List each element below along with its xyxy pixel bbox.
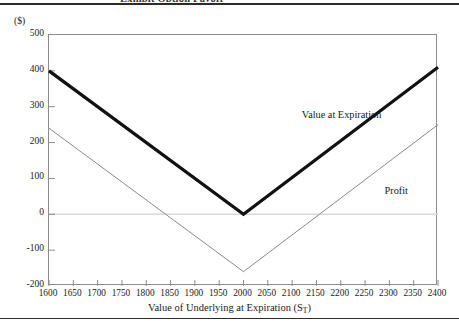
x-axis-title-subscript: T xyxy=(303,306,308,315)
figure-caption-fragment: Exhibit Option Payoff xyxy=(120,0,350,2)
x-axis-title-paren: ) xyxy=(307,302,311,313)
y-axis-tick-label: 100 xyxy=(0,173,44,183)
x-axis-tick-label: 2000 xyxy=(233,289,252,298)
x-axis-tick-label: 1650 xyxy=(63,289,82,298)
x-axis-tick-labels: 1600165017001750180018501900195020002050… xyxy=(48,289,437,302)
x-axis-tick-marks xyxy=(49,280,438,286)
y-axis-tick-label: 500 xyxy=(0,29,44,39)
y-axis-tick-labels: 5004003002001000-100-200 xyxy=(0,34,44,285)
y-axis-unit-label: ($) xyxy=(14,17,25,27)
y-axis-tick-label: -200 xyxy=(0,280,44,290)
y-axis-tick-label: 200 xyxy=(0,137,44,147)
y-axis-tick-marks xyxy=(49,71,55,250)
series-annotation-value-at-expiration: Value at Expiration xyxy=(302,110,382,120)
payoff-figure: Exhibit Option Payoff ($) 50040030020010… xyxy=(0,0,459,327)
bottom-rule xyxy=(0,318,459,319)
series-annotation-profit: Profit xyxy=(385,186,408,196)
series-line xyxy=(49,67,438,214)
y-axis-tick-label: -100 xyxy=(0,244,44,254)
x-axis-tick-label: 2050 xyxy=(258,289,277,298)
x-axis-title-main: Value of Underlying at Expiration (S xyxy=(148,302,303,313)
x-axis-tick-label: 1800 xyxy=(136,289,155,298)
x-axis-tick-label: 2300 xyxy=(379,289,398,298)
x-axis-tick-label: 2350 xyxy=(403,289,422,298)
x-axis-tick-label: 2250 xyxy=(355,289,374,298)
x-axis-tick-label: 1600 xyxy=(39,289,58,298)
x-axis-tick-label: 1700 xyxy=(87,289,106,298)
series-lines xyxy=(49,67,438,271)
plot-svg xyxy=(49,35,438,286)
x-axis-tick-label: 2100 xyxy=(282,289,301,298)
x-axis-tick-label: 1950 xyxy=(209,289,228,298)
y-axis-tick-label: 300 xyxy=(0,101,44,111)
y-axis-tick-label: 0 xyxy=(0,209,44,219)
x-axis-tick-label: 1850 xyxy=(160,289,179,298)
x-axis-title: Value of Underlying at Expiration (ST) xyxy=(0,303,459,314)
x-axis-tick-label: 2150 xyxy=(306,289,325,298)
x-axis-tick-label: 1900 xyxy=(185,289,204,298)
y-axis-tick-label: 400 xyxy=(0,65,44,75)
series-line xyxy=(49,125,438,272)
top-rule xyxy=(0,3,459,5)
x-axis-tick-label: 2200 xyxy=(330,289,349,298)
plot-area: Value at Expiration Profit xyxy=(48,34,437,285)
x-axis-tick-label: 1750 xyxy=(112,289,131,298)
x-axis-tick-label: 2400 xyxy=(428,289,447,298)
